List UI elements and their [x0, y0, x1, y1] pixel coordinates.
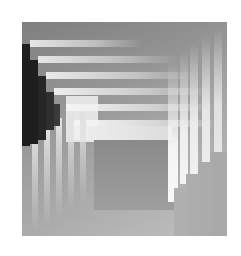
lower-right-step1: [210, 152, 227, 236]
lower-right-step4: [174, 188, 188, 236]
dark-step2: [30, 60, 38, 144]
light-bar-v-right1: [168, 62, 178, 202]
light-bar-v-right2: [180, 52, 188, 184]
dark-center-rect: [94, 140, 176, 210]
dark-step1: [22, 44, 30, 146]
light-bar-v-right3: [190, 44, 198, 174]
light-bar-v-left5: [80, 112, 86, 204]
dark-step5: [54, 104, 60, 126]
lower-right-step2: [198, 162, 212, 236]
lower-right-step3: [186, 174, 200, 236]
dark-step3: [38, 76, 46, 140]
dark-step4: [46, 92, 54, 130]
abstract-artwork: [22, 22, 227, 236]
light-bar-h1: [30, 40, 142, 47]
light-bar-v-left4: [68, 114, 74, 210]
light-bar-v-left3: [56, 118, 62, 218]
light-bar-v-right5: [214, 30, 222, 154]
light-bar-v-right4: [202, 36, 210, 162]
bright-center-strip: [72, 126, 172, 140]
light-bar-h2: [38, 56, 178, 63]
